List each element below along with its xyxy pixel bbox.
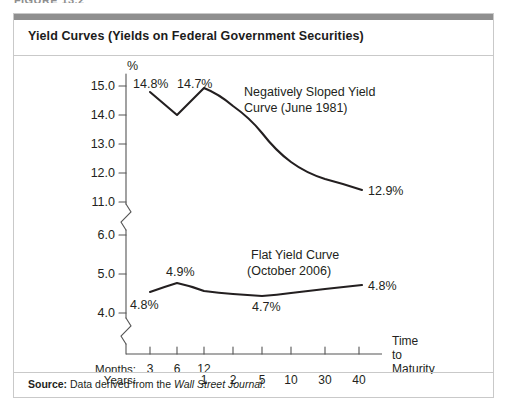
source-publication: Wall Street Journal bbox=[174, 378, 263, 390]
series-line-october-2006 bbox=[150, 283, 362, 296]
figure-caption: FIGURE 13.2 bbox=[14, 0, 84, 3]
y-axis-ticks bbox=[119, 86, 126, 313]
y-label-13: 13.0 bbox=[91, 137, 115, 151]
y-label-5: 5.0 bbox=[98, 267, 115, 281]
source-note: Source: Data derived from the Wall Stree… bbox=[28, 378, 265, 390]
y-label-12: 12.0 bbox=[91, 166, 115, 180]
point-label-4-8-end: 4.8% bbox=[368, 279, 397, 293]
y-axis-unit-label: % bbox=[127, 59, 138, 73]
page-title: Yield Curves (Yields on Federal Governme… bbox=[28, 29, 364, 43]
y-label-11: 11.0 bbox=[92, 195, 115, 209]
point-label-14-8: 14.8% bbox=[133, 77, 168, 91]
x-axis-ticks bbox=[150, 347, 359, 354]
x-axis-title-line2: to bbox=[392, 348, 402, 362]
point-label-4-7: 4.7% bbox=[252, 300, 281, 314]
annotation-negatively-sloped-line2: Curve (June 1981) bbox=[244, 101, 348, 115]
point-label-4-8-start: 4.8% bbox=[130, 298, 159, 312]
source-bar: Source: Data derived from the Wall Stree… bbox=[14, 372, 493, 397]
source-label: Source: bbox=[28, 378, 67, 390]
y-label-15: 15.0 bbox=[91, 79, 115, 93]
source-period: . bbox=[262, 378, 265, 390]
annotation-flat-yield-line2: (October 2006) bbox=[247, 264, 331, 278]
point-label-12-9: 12.9% bbox=[368, 184, 403, 198]
y-axis bbox=[121, 74, 131, 354]
chart-plot-area: 15.0 14.0 13.0 12.0 11.0 6.0 5.0 4.0 % bbox=[14, 56, 493, 374]
y-label-6: 6.0 bbox=[98, 228, 115, 242]
y-label-14: 14.0 bbox=[91, 108, 115, 122]
figure-box: Yield Curves (Yields on Federal Governme… bbox=[13, 13, 494, 398]
annotation-flat-yield-line1: Flat Yield Curve bbox=[251, 248, 339, 262]
point-label-14-7: 14.7% bbox=[177, 77, 212, 91]
annotation-negatively-sloped-line1: Negatively Sloped Yield bbox=[244, 85, 375, 99]
yield-curve-chart: 15.0 14.0 13.0 12.0 11.0 6.0 5.0 4.0 % bbox=[14, 56, 493, 374]
source-body: Data derived from the bbox=[67, 378, 174, 390]
title-bar: Yield Curves (Yields on Federal Governme… bbox=[14, 20, 493, 56]
point-label-4-9: 4.9% bbox=[166, 265, 195, 279]
y-label-4: 4.0 bbox=[98, 306, 115, 320]
x-axis-title-line1: Time bbox=[392, 334, 419, 348]
